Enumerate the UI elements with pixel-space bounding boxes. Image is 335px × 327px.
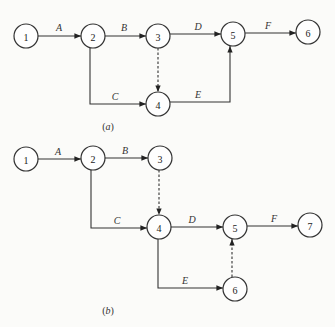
activity-network-diagrams: A B C D E F 1 2 3 4 5 6 (a) A B C D E (0, 0, 335, 327)
node-b-1: 1 (14, 147, 38, 171)
svg-text:4: 4 (157, 223, 162, 234)
edge-label-D: D (193, 21, 202, 32)
node-b-5: 5 (223, 215, 247, 239)
node-b-3: 3 (148, 146, 172, 170)
diagram-b: A B C D E F 1 2 3 4 5 6 7 (b) (14, 145, 322, 317)
svg-text:6: 6 (233, 285, 238, 296)
node-a-2: 2 (81, 24, 105, 48)
svg-text:2: 2 (91, 32, 96, 43)
edge-label-C: C (114, 215, 121, 226)
node-a-6: 6 (296, 20, 320, 44)
caption-b: (b) (102, 305, 114, 317)
edge-label-E: E (194, 89, 201, 100)
edge-label-A: A (54, 146, 62, 157)
svg-text:3: 3 (158, 154, 163, 165)
edge-label-C: C (112, 91, 119, 102)
node-b-4: 4 (147, 215, 171, 239)
diagram-a: A B C D E F 1 2 3 4 5 6 (a) (14, 20, 320, 133)
svg-text:3: 3 (156, 32, 161, 43)
svg-text:7: 7 (308, 221, 313, 232)
caption-a: (a) (102, 121, 114, 133)
node-a-3: 3 (146, 24, 170, 48)
svg-text:1: 1 (24, 32, 29, 43)
edge-label-D: D (187, 214, 196, 225)
node-b-6: 6 (223, 277, 247, 301)
node-a-5: 5 (221, 22, 245, 46)
node-b-2: 2 (81, 146, 105, 170)
edge-label-F: F (270, 213, 278, 224)
edge-label-F: F (264, 20, 272, 31)
svg-text:5: 5 (231, 30, 236, 41)
edge-label-B: B (121, 22, 127, 33)
svg-text:5: 5 (233, 223, 238, 234)
edge-b-E (158, 239, 223, 288)
svg-text:6: 6 (306, 28, 311, 39)
edge-label-E: E (181, 275, 188, 286)
node-a-1: 1 (14, 24, 38, 48)
edge-label-B: B (122, 145, 128, 156)
svg-text:2: 2 (91, 154, 96, 165)
edge-label-A: A (55, 22, 63, 33)
node-a-4: 4 (146, 92, 170, 116)
svg-text:4: 4 (156, 100, 161, 111)
node-b-7: 7 (298, 213, 322, 237)
svg-text:1: 1 (24, 155, 29, 166)
